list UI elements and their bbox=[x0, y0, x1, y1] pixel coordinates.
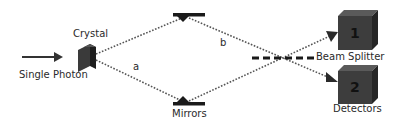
arrowhead-detector-2-icon bbox=[326, 72, 338, 82]
detector-1-number: 1 bbox=[350, 26, 360, 40]
path-b-to-top-mirror bbox=[96, 18, 182, 54]
top-mirror-icon bbox=[173, 13, 205, 22]
detectors-label: Detectors bbox=[333, 104, 382, 114]
crystal-icon bbox=[78, 44, 96, 72]
photon-paths bbox=[96, 18, 330, 101]
detector-2-number: 2 bbox=[350, 80, 360, 94]
mirrors-label: Mirrors bbox=[172, 109, 207, 119]
bottom-mirror-to-detector-1 bbox=[189, 36, 330, 101]
photon-arrow-icon bbox=[22, 52, 63, 62]
arrowhead-detector-1-icon bbox=[326, 31, 338, 42]
path-b-label: b bbox=[220, 38, 226, 48]
path-a-label: a bbox=[133, 62, 139, 72]
single-photon-label: Single Photon bbox=[19, 70, 88, 80]
crystal-label: Crystal bbox=[73, 29, 108, 39]
beam-splitter-label: Beam Splitter bbox=[316, 52, 384, 62]
